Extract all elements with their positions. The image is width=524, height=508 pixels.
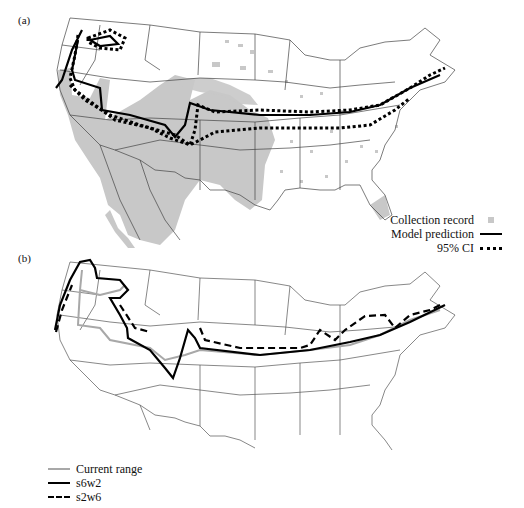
s6w2-line	[55, 260, 445, 378]
solid-line-icon	[480, 233, 502, 235]
legend-item-s6w2: s6w2	[48, 476, 142, 490]
s2w6-line	[56, 285, 440, 348]
map-panel-b	[0, 250, 524, 450]
legend-item-collection-record: Collection record	[390, 213, 502, 227]
legend-item-current-range: Current range	[48, 462, 142, 476]
gray-square-icon	[488, 217, 494, 223]
legend-panel-b: Current range s6w2 s2w6	[48, 462, 142, 504]
gray-line-icon	[48, 468, 70, 470]
legend-item-model-prediction: Model prediction	[390, 227, 502, 241]
legend-panel-a: Collection record Model prediction 95% C…	[390, 213, 502, 255]
legend-item-s2w6: s2w6	[48, 490, 142, 504]
solid-line-icon	[48, 482, 70, 484]
dashed-line-icon	[48, 496, 70, 498]
